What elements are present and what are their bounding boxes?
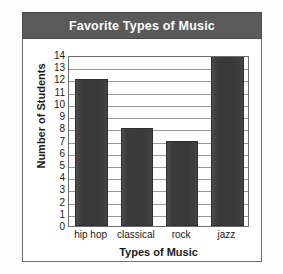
x-axis-category-labels: hip hopclassicalrockjazz [68,229,249,243]
y-axis-tick-label: 14 [45,51,65,61]
chart-title: Favorite Types of Music [69,19,215,33]
y-axis-tick-label: 13 [45,63,65,73]
y-axis-tick-label: 6 [45,149,65,159]
bar [121,128,154,226]
y-axis-tick-label: 9 [45,112,65,122]
chart-card: Favorite Types of Music Number of Studen… [22,12,262,262]
y-axis-tick-label: 2 [45,198,65,208]
x-axis-category-label: hip hop [68,229,113,240]
y-axis-tick-label: 12 [45,75,65,85]
x-axis-category-label: classical [113,229,158,240]
y-axis-tick-label: 4 [45,173,65,183]
x-axis-title: Types of Music [68,246,249,258]
y-axis-tick-label: 1 [45,210,65,220]
y-axis-tick-label: 10 [45,100,65,110]
y-axis-tick-label: 5 [45,161,65,171]
x-axis-category-label: jazz [204,229,249,240]
chart-title-banner: Favorite Types of Music [22,12,262,39]
page-background: Favorite Types of Music Number of Studen… [0,0,283,274]
y-axis-tick-labels: 14131211109876543210 [45,55,65,227]
plot-area [68,56,249,227]
y-axis-tick-label: 11 [45,88,65,98]
bar [211,56,244,226]
y-axis-tick-label: 8 [45,124,65,134]
y-axis-tick-label: 7 [45,137,65,147]
bar [166,141,199,227]
y-axis-tick-label: 0 [45,222,65,232]
x-axis-category-label: rock [159,229,204,240]
chart-body: Number of Students 14131211109876543210 … [23,40,261,261]
y-axis-tick-label: 3 [45,185,65,195]
bar [75,79,108,226]
